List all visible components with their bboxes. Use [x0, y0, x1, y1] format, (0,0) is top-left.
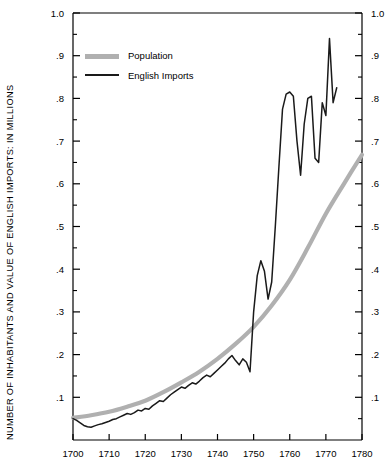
y-tick-label-left: .9 — [56, 50, 64, 61]
y-tick-label-right: 1.0 — [371, 8, 384, 19]
x-tick-label: 1720 — [135, 448, 156, 459]
y-tick-label-right: .2 — [371, 349, 379, 360]
y-tick-label-right: .4 — [371, 264, 379, 275]
y-tick-label-right: .8 — [371, 93, 379, 104]
y-tick-label-right: .6 — [371, 178, 379, 189]
series-layer — [73, 39, 362, 428]
legend-swatch-english-imports — [85, 74, 119, 76]
y-tick-label-left: .7 — [56, 136, 64, 147]
x-tick-label: 1700 — [62, 448, 83, 459]
y-axis-labels-right: .1.2.3.4.5.6.7.8.91.0 — [371, 8, 384, 403]
x-axis-labels: 170017101720173017401750176017701780 — [62, 448, 372, 459]
y-axis-title: NUMBER OF INHABITANTS AND VALUE OF ENGLI… — [5, 85, 15, 440]
x-tick-label: 1730 — [171, 448, 192, 459]
y-axis-title-text: NUMBER OF INHABITANTS AND VALUE OF ENGLI… — [5, 85, 15, 440]
y-tick-label-right: .3 — [371, 306, 379, 317]
y-tick-label-left: .1 — [56, 392, 64, 403]
y-axis-ticks-left — [73, 13, 80, 419]
y-tick-label-left: .5 — [56, 221, 64, 232]
y-tick-label-right: .1 — [371, 392, 379, 403]
y-tick-label-left: .2 — [56, 349, 64, 360]
y-tick-label-left: .8 — [56, 93, 64, 104]
y-tick-label-left: .3 — [56, 306, 64, 317]
legend-swatch-population — [85, 54, 119, 59]
line-chart: NUMBER OF INHABITANTS AND VALUE OF ENGLI… — [0, 0, 391, 473]
chart-container: NUMBER OF INHABITANTS AND VALUE OF ENGLI… — [0, 0, 391, 473]
y-tick-label-left: .6 — [56, 178, 64, 189]
x-tick-label: 1760 — [279, 448, 300, 459]
y-axis-ticks-right — [355, 13, 362, 419]
legend: Population English Imports — [85, 50, 194, 81]
legend-label-population: Population — [128, 50, 173, 61]
y-tick-label-left: .4 — [56, 264, 64, 275]
y-tick-label-right: .9 — [371, 50, 379, 61]
legend-label-english-imports: English Imports — [128, 70, 194, 81]
y-tick-label-right: .7 — [371, 136, 379, 147]
x-tick-label: 1710 — [99, 448, 120, 459]
x-axis-ticks — [73, 434, 362, 440]
x-tick-label: 1770 — [315, 448, 336, 459]
y-axis-labels-left: .1.2.3.4.5.6.7.8.91.0 — [51, 8, 64, 403]
x-tick-label: 1750 — [243, 448, 264, 459]
x-tick-label: 1780 — [351, 448, 372, 459]
series-line-population — [73, 155, 362, 418]
y-tick-label-left: 1.0 — [51, 8, 64, 19]
y-tick-label-right: .5 — [371, 221, 379, 232]
x-tick-label: 1740 — [207, 448, 228, 459]
